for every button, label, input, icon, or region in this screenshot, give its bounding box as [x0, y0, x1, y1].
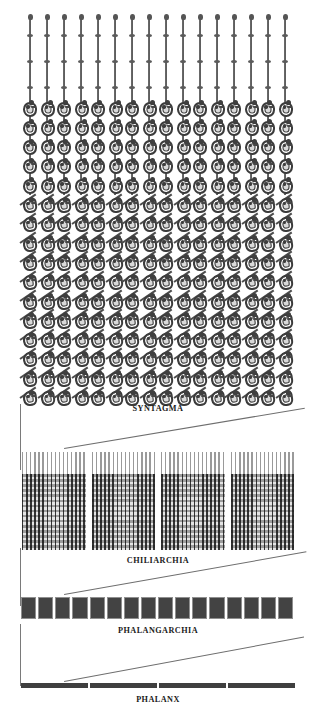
pike-grip-node-icon [197, 60, 203, 63]
soldier-icon [210, 158, 225, 172]
soldier-icon [278, 235, 293, 249]
soldier-icon [90, 119, 105, 133]
soldier-icon [192, 312, 207, 326]
pike-grip-node-icon [231, 86, 237, 89]
soldier-icon [278, 119, 293, 133]
pike-grip-node-icon [197, 34, 203, 37]
soldier-icon [56, 235, 71, 249]
pike-grip-node-icon [61, 86, 67, 89]
phalangarchia-block [175, 597, 190, 619]
pike-grip-node-icon [214, 34, 220, 37]
soldier-icon [192, 177, 207, 191]
soldier-icon [226, 332, 241, 346]
soldier-icon [210, 177, 225, 191]
soldier-icon [192, 216, 207, 230]
pike-grip-node-icon [180, 60, 186, 63]
soldier-icon [74, 177, 89, 191]
pike-grip-node-icon [214, 86, 220, 89]
phalangarchia-block [244, 597, 259, 619]
soldier-icon [56, 274, 71, 288]
soldier-icon [158, 216, 173, 230]
soldier-icon [56, 390, 71, 404]
soldier-icon [90, 177, 105, 191]
pike-grip-node-icon [146, 34, 152, 37]
soldier-icon [124, 197, 139, 211]
soldier-icon [158, 177, 173, 191]
label-syntagma: SYNTAGMA [0, 404, 316, 413]
soldier-icon [40, 158, 55, 172]
pike-grip-node-icon [197, 86, 203, 89]
pike-grip-node-icon [61, 34, 67, 37]
soldier-icon [90, 390, 105, 404]
soldier-icon [176, 158, 191, 172]
soldier-icon [142, 100, 157, 114]
soldier-icon [56, 197, 71, 211]
soldier-icon [158, 197, 173, 211]
pike-grip-node-icon [163, 60, 169, 63]
soldier-icon [124, 177, 139, 191]
soldier-icon [90, 235, 105, 249]
soldier-icon [278, 390, 293, 404]
pike-tips-band [22, 452, 86, 476]
soldier-icon [278, 351, 293, 365]
soldier-icon [22, 158, 37, 172]
soldier-icon [22, 197, 37, 211]
soldier-icon [56, 254, 71, 268]
soldier-icon [40, 177, 55, 191]
pike-grip-node-icon [265, 86, 271, 89]
soldier-icon [158, 235, 173, 249]
soldier-icon [56, 216, 71, 230]
pike-grip-node-icon [248, 60, 254, 63]
soldier-icon [226, 216, 241, 230]
soldier-icon [278, 139, 293, 153]
soldier-icon [278, 177, 293, 191]
soldier-icon [244, 158, 259, 172]
soldier-icon [226, 351, 241, 365]
phalangarchia-block [227, 597, 242, 619]
soldier-icon [22, 119, 37, 133]
phalangarchia-block [107, 597, 122, 619]
pike-grip-node-icon [265, 60, 271, 63]
soldier-icon [90, 254, 105, 268]
pike-grip-node-icon [146, 60, 152, 63]
pike-grip-node-icon [78, 60, 84, 63]
phalangarchia-block [261, 597, 276, 619]
pike-grip-node-icon [214, 60, 220, 63]
soldier-icon [226, 312, 241, 326]
soldier-icon [90, 351, 105, 365]
pike-tips-band [231, 452, 295, 476]
pike-grip-node-icon [27, 34, 33, 37]
soldier-icon [90, 332, 105, 346]
pike-grip-node-icon [129, 34, 135, 37]
soldier-icon [226, 158, 241, 172]
soldier-icon [124, 390, 139, 404]
soldier-icon [260, 158, 275, 172]
expansion-line-phalangarchia [64, 637, 304, 682]
pike-tips-band [92, 452, 156, 476]
soldier-icon [22, 177, 37, 191]
pike-grip-node-icon [231, 34, 237, 37]
soldier-icon [124, 254, 139, 268]
soldier-icon [90, 139, 105, 153]
soldier-icon [260, 254, 275, 268]
soldier-icon [260, 293, 275, 307]
syntagma-formation [22, 14, 294, 396]
soldier-icon [158, 119, 173, 133]
pike-grip-node-icon [163, 86, 169, 89]
phalangarchia-block [141, 597, 156, 619]
syntagma-file [277, 14, 294, 396]
label-phalangarchia: PHALANGARCHIA [0, 626, 316, 635]
soldier-icon [210, 139, 225, 153]
soldier-icon [226, 370, 241, 384]
phalanx-hierarchy-diagram: SYNTAGMA CHILIARCHIA PHALANGARCHIA PHALA… [0, 0, 316, 716]
phalanx-segment [21, 683, 88, 688]
soldier-icon [260, 370, 275, 384]
soldier-icon [192, 254, 207, 268]
pike-grip-node-icon [129, 60, 135, 63]
soldier-icon [192, 119, 207, 133]
soldier-icon [226, 100, 241, 114]
soldier-icon [192, 197, 207, 211]
pike-grip-node-icon [282, 60, 288, 63]
pike-grip-node-icon [129, 86, 135, 89]
soldier-icon [124, 139, 139, 153]
